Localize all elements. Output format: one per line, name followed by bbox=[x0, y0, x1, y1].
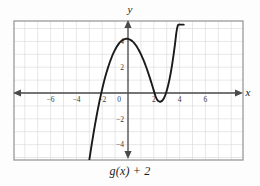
x-tick-label: 6 bbox=[204, 95, 208, 104]
x-tick-label: −4 bbox=[72, 95, 80, 104]
y-tick-label: −2 bbox=[116, 115, 124, 124]
y-tick-label: 2 bbox=[120, 63, 124, 72]
y-tick-label: −4 bbox=[116, 140, 124, 149]
x-tick-label: 4 bbox=[178, 95, 182, 104]
coordinate-plane: −6−4−20246 −4−224 x y bbox=[0, 0, 260, 186]
x-axis-label: x bbox=[245, 86, 251, 98]
y-axis-label: y bbox=[127, 3, 133, 15]
x-tick-label: −6 bbox=[47, 95, 55, 104]
graph-figure: −6−4−20246 −4−224 x y g(x) + 2 bbox=[0, 0, 260, 186]
figure-caption: g(x) + 2 bbox=[0, 164, 260, 179]
x-tick-label: 0 bbox=[117, 95, 121, 104]
